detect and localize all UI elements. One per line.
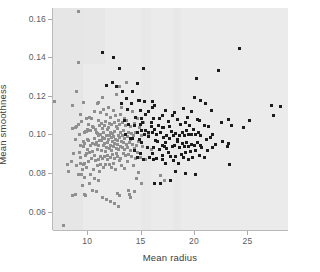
data-point-malignant	[209, 136, 212, 139]
data-point-benign	[78, 133, 81, 136]
data-point-malignant	[230, 124, 233, 127]
data-point-malignant	[177, 162, 180, 165]
plot-panel	[53, 8, 288, 230]
data-point-benign	[113, 202, 116, 205]
data-point-benign	[70, 160, 73, 163]
data-point-malignant	[143, 133, 146, 136]
data-point-malignant	[214, 143, 217, 146]
data-point-benign	[131, 143, 134, 146]
data-point-benign	[107, 106, 110, 109]
y-tick-label: 0.08	[29, 168, 46, 178]
data-point-malignant	[203, 156, 206, 159]
data-point-malignant	[152, 117, 155, 120]
data-point-benign	[107, 126, 110, 129]
data-point-malignant	[167, 120, 170, 123]
data-point-benign	[90, 117, 93, 120]
data-point-malignant	[125, 97, 128, 100]
data-point-malignant	[184, 172, 187, 175]
data-point-benign	[135, 144, 138, 147]
data-point-malignant	[146, 146, 149, 149]
data-point-malignant	[164, 162, 167, 165]
data-point-malignant	[161, 158, 164, 161]
data-point-malignant	[126, 108, 129, 111]
data-point-malignant	[168, 125, 171, 128]
data-point-benign	[72, 152, 75, 155]
data-point-benign	[100, 149, 103, 152]
data-point-malignant	[200, 146, 203, 149]
data-point-malignant	[150, 125, 153, 128]
data-point-benign	[130, 155, 133, 158]
data-point-benign	[83, 176, 86, 179]
data-point-malignant	[173, 144, 176, 147]
data-point-benign	[96, 148, 99, 151]
data-point-benign	[103, 137, 106, 140]
data-point-malignant	[181, 142, 184, 145]
data-point-malignant	[184, 151, 187, 154]
data-point-benign	[109, 200, 112, 203]
data-point-benign	[113, 121, 116, 124]
data-point-benign	[118, 194, 121, 197]
data-point-malignant	[211, 133, 214, 136]
data-point-malignant	[181, 131, 184, 134]
data-point-malignant	[111, 81, 114, 84]
data-point-malignant	[190, 133, 193, 136]
data-point-benign	[102, 166, 105, 169]
data-point-benign	[102, 108, 105, 111]
data-point-benign	[80, 120, 83, 123]
x-axis-line	[53, 230, 288, 231]
data-point-malignant	[158, 148, 161, 151]
data-point-malignant	[152, 146, 155, 149]
data-point-malignant	[140, 117, 143, 120]
data-point-benign	[109, 116, 112, 119]
data-point-malignant	[193, 96, 196, 99]
data-point-malignant	[217, 69, 220, 72]
data-point-benign	[114, 114, 117, 117]
data-point-malignant	[183, 145, 186, 148]
data-point-benign	[91, 150, 94, 153]
data-point-benign	[74, 193, 77, 196]
data-point-malignant	[139, 152, 142, 155]
data-point-malignant	[130, 102, 133, 105]
data-point-malignant	[138, 99, 141, 102]
data-point-malignant	[210, 109, 213, 112]
data-point-malignant	[121, 90, 124, 93]
data-point-malignant	[136, 156, 139, 159]
data-point-malignant	[164, 109, 167, 112]
data-point-benign	[163, 179, 166, 182]
data-point-malignant	[151, 131, 154, 134]
y-axis-line	[52, 8, 53, 230]
data-point-malignant	[206, 149, 209, 152]
data-point-malignant	[238, 47, 241, 50]
data-point-malignant	[194, 149, 197, 152]
data-point-malignant	[153, 182, 156, 185]
data-point-benign	[71, 104, 74, 107]
data-point-malignant	[205, 138, 208, 141]
data-point-benign	[90, 157, 93, 160]
data-point-benign	[89, 173, 92, 176]
data-point-malignant	[165, 147, 168, 150]
data-point-benign	[133, 190, 136, 193]
data-point-benign	[74, 138, 77, 141]
data-point-malignant	[199, 99, 202, 102]
data-point-benign	[81, 184, 84, 187]
data-point-malignant	[142, 158, 145, 161]
x-tick-label: 25	[242, 236, 252, 246]
data-point-malignant	[168, 137, 171, 140]
data-point-benign	[140, 182, 143, 185]
data-point-malignant	[123, 119, 126, 122]
y-tick-label: 0.12	[29, 91, 46, 101]
data-point-benign	[97, 179, 100, 182]
data-point-benign	[110, 149, 113, 152]
data-point-malignant	[204, 102, 207, 105]
data-point-malignant	[174, 155, 177, 158]
data-point-benign	[97, 144, 100, 147]
y-tick-label: 0.10	[29, 129, 46, 139]
data-point-benign	[111, 153, 114, 156]
data-point-benign	[98, 170, 101, 173]
data-point-benign	[131, 110, 134, 113]
data-point-malignant	[153, 128, 156, 131]
data-point-benign	[114, 168, 117, 171]
data-point-benign	[117, 119, 120, 122]
data-point-benign	[104, 150, 107, 153]
data-point-benign	[125, 81, 128, 84]
